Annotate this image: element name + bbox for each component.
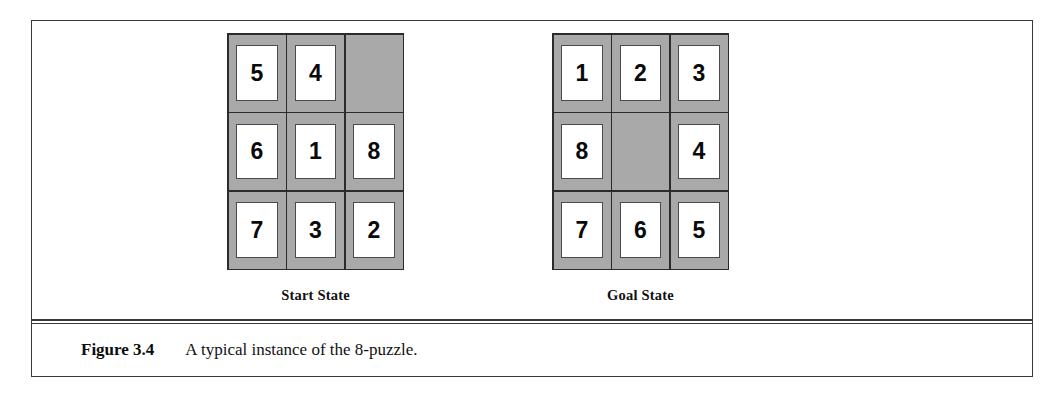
puzzle-cell[interactable]: 5 <box>671 192 728 269</box>
puzzle-cell[interactable]: 3 <box>671 35 728 112</box>
puzzle-tile: 7 <box>561 202 602 257</box>
puzzle-tile: 8 <box>353 124 394 179</box>
puzzle-cell[interactable]: 6 <box>229 113 286 190</box>
puzzle-cell[interactable]: 8 <box>346 113 403 190</box>
puzzle-cell[interactable]: 2 <box>612 35 669 112</box>
puzzle-cell[interactable]: 7 <box>554 192 611 269</box>
puzzle-tile: 3 <box>678 45 719 100</box>
puzzle-tile: 1 <box>295 124 336 179</box>
start-state-label: Start State <box>227 287 404 304</box>
puzzle-cell[interactable]: 5 <box>229 35 286 112</box>
puzzle-tile: 7 <box>236 202 277 257</box>
puzzle-cell[interactable]: 8 <box>554 113 611 190</box>
goal-state-board: 1 2 3 8 4 <box>552 33 729 304</box>
puzzle-cell[interactable]: 6 <box>612 192 669 269</box>
puzzle-cell[interactable]: 1 <box>554 35 611 112</box>
puzzle-tile: 4 <box>295 45 336 100</box>
puzzle-cell-blank[interactable] <box>612 113 669 190</box>
puzzle-tile: 8 <box>561 124 602 179</box>
puzzle-tile: 6 <box>620 202 661 257</box>
puzzle-tile: 2 <box>620 45 661 100</box>
puzzle-cell[interactable]: 7 <box>229 192 286 269</box>
figure-body: 5 4 6 1 8 <box>32 21 1032 319</box>
puzzle-tile: 1 <box>561 45 602 100</box>
figure-frame: 5 4 6 1 8 <box>31 20 1033 377</box>
divider-line-top <box>32 319 1032 321</box>
puzzle-cell[interactable]: 2 <box>346 192 403 269</box>
puzzle-cell[interactable]: 3 <box>287 192 344 269</box>
puzzle-cell-blank[interactable] <box>346 35 403 112</box>
puzzle-tile: 6 <box>236 124 277 179</box>
puzzle-cell[interactable]: 4 <box>671 113 728 190</box>
puzzle-cell[interactable]: 1 <box>287 113 344 190</box>
puzzle-boards: 5 4 6 1 8 <box>32 21 1032 319</box>
figure-caption-label: Figure 3.4 <box>81 340 154 360</box>
puzzle-cell[interactable]: 4 <box>287 35 344 112</box>
puzzle-tile: 5 <box>236 45 277 100</box>
puzzle-tile: 5 <box>678 202 719 257</box>
start-state-board: 5 4 6 1 8 <box>227 33 404 304</box>
puzzle-tile: 4 <box>678 124 719 179</box>
goal-state-label: Goal State <box>552 287 729 304</box>
figure-caption: Figure 3.4 A typical instance of the 8-p… <box>32 324 1032 375</box>
puzzle-tile: 3 <box>295 202 336 257</box>
goal-state-grid: 1 2 3 8 4 <box>552 33 729 270</box>
start-state-grid: 5 4 6 1 8 <box>227 33 404 270</box>
puzzle-tile: 2 <box>353 202 394 257</box>
figure-caption-text: A typical instance of the 8-puzzle. <box>185 340 417 360</box>
